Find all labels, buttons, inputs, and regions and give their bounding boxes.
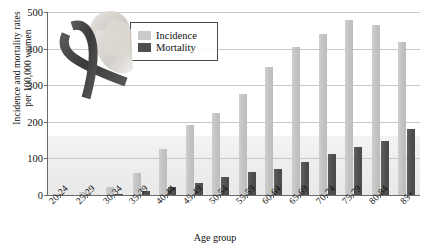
y-tick-label: 400: [27, 43, 43, 54]
bar-group: [394, 12, 421, 195]
bar-series-container: [48, 12, 420, 195]
bar-group: [234, 12, 261, 195]
y-tick-label: 0: [38, 190, 43, 201]
incidence-bar: [292, 47, 300, 195]
mortality-bar: [407, 129, 415, 195]
x-axis-title: Age group: [0, 232, 430, 243]
bar-group: [287, 12, 314, 195]
bar-group: [367, 12, 394, 195]
y-tick-label: 200: [27, 116, 43, 127]
bar-group: [101, 12, 128, 195]
incidence-bar: [239, 94, 247, 195]
incidence-bar: [319, 34, 327, 195]
incidence-bar: [372, 25, 380, 195]
bar-group: [48, 12, 75, 195]
incidence-bar: [398, 42, 406, 195]
incidence-bar: [212, 113, 220, 195]
legend-label-mortality: Mortality: [156, 42, 196, 53]
bar-group: [75, 12, 102, 195]
legend: Incidence Mortality: [130, 22, 218, 61]
incidence-bar: [345, 20, 353, 195]
bar-group: [261, 12, 288, 195]
breast-cancer-rates-bar-chart: Incidence and mortality rates per 100,00…: [0, 0, 430, 251]
y-tick-mark: [44, 195, 48, 196]
y-axis-title-line1: Incidence and mortality rates: [12, 11, 22, 124]
incidence-bar: [265, 67, 273, 195]
legend-item-incidence: Incidence: [138, 30, 211, 41]
y-tick-label: 500: [27, 7, 43, 18]
legend-item-mortality: Mortality: [138, 42, 211, 53]
mortality-swatch-icon: [138, 43, 151, 52]
incidence-swatch-icon: [138, 31, 151, 40]
bar-group: [314, 12, 341, 195]
bar-group: [340, 12, 367, 195]
plot-area: 0100200300400500: [47, 12, 420, 196]
y-tick-label: 100: [27, 153, 43, 164]
y-tick-label: 300: [27, 80, 43, 91]
incidence-bar: [186, 125, 194, 195]
legend-label-incidence: Incidence: [156, 30, 197, 41]
